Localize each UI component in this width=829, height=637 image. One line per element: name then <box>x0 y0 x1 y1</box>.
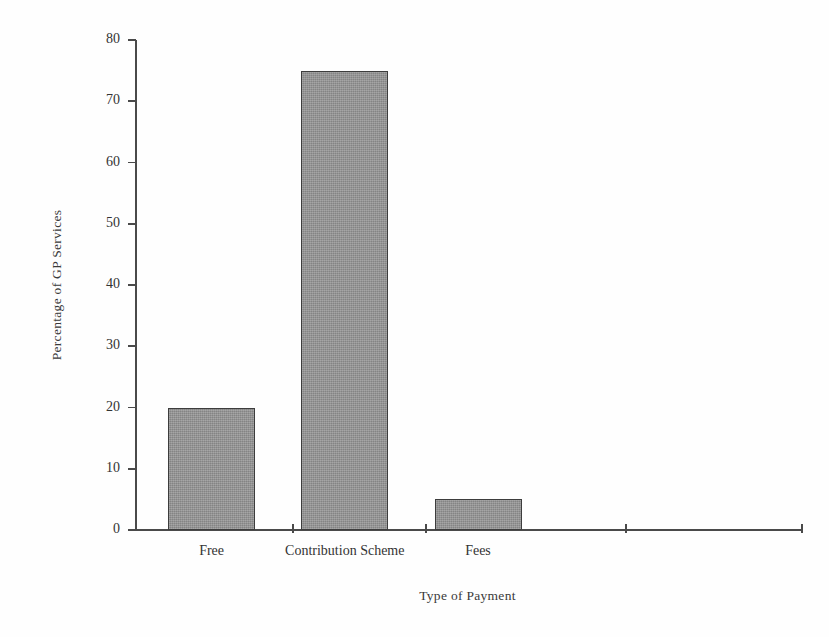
bar-chart: Percentage of GP Services 01020304050607… <box>0 0 829 637</box>
x-axis-category-label: Fees <box>318 543 638 559</box>
x-axis-title: Type of Payment <box>135 588 800 604</box>
bar <box>168 408 255 531</box>
y-axis-tick <box>128 407 136 409</box>
y-axis-tick-label-wrap: 80 <box>72 31 120 49</box>
y-axis-tick <box>128 468 136 470</box>
y-axis-tick-label: 20 <box>80 399 120 415</box>
x-axis-tick <box>801 524 803 533</box>
y-axis-tick <box>128 345 136 347</box>
y-axis-tick-label: 70 <box>80 92 120 108</box>
y-axis-tick <box>128 39 136 41</box>
y-axis-tick-label: 0 <box>80 521 120 537</box>
y-axis-tick-label: 60 <box>80 154 120 170</box>
bar <box>435 499 522 530</box>
y-axis-tick-label-wrap: 60 <box>72 154 120 172</box>
y-axis-tick-label: 80 <box>80 31 120 47</box>
bar <box>301 71 388 530</box>
y-axis-tick-label-wrap: 50 <box>72 215 120 233</box>
y-axis-tick <box>128 100 136 102</box>
y-axis-tick-label: 30 <box>80 337 120 353</box>
y-axis-tick-label: 10 <box>80 460 120 476</box>
y-axis-tick-label-wrap: 0 <box>72 521 120 539</box>
x-axis-tick <box>425 524 427 533</box>
y-axis-tick <box>128 284 136 286</box>
x-axis-tick <box>625 524 627 533</box>
y-axis-tick-label-wrap: 10 <box>72 460 120 478</box>
y-axis-tick-label: 50 <box>80 215 120 231</box>
y-axis-tick-label-wrap: 40 <box>72 276 120 294</box>
y-axis-tick <box>128 223 136 225</box>
y-axis-tick-label-wrap: 20 <box>72 399 120 417</box>
y-axis-tick-label: 40 <box>80 276 120 292</box>
x-axis-tick <box>292 524 294 533</box>
y-axis-tick <box>128 529 136 531</box>
y-axis-tick-label-wrap: 30 <box>72 337 120 355</box>
y-axis-tick <box>128 162 136 164</box>
y-axis-tick-label-wrap: 70 <box>72 92 120 110</box>
y-axis-title: Percentage of GP Services <box>46 40 68 530</box>
